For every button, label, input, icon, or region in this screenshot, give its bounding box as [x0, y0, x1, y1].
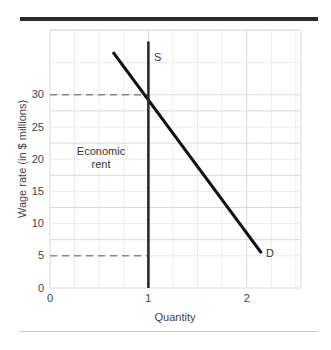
economic-rent-annotation-line1: Economic [77, 145, 126, 157]
x-tick-1: 1 [145, 292, 151, 304]
x-axis-tick-labels: 0 1 2 [47, 292, 250, 304]
y-tick-0: 0 [38, 282, 44, 294]
figure-container: S D Economic rent 0 5 10 15 20 25 30 0 1… [0, 0, 331, 350]
y-tick-20: 20 [32, 153, 44, 165]
y-axis-tick-labels: 0 5 10 15 20 25 30 [32, 88, 44, 293]
y-tick-30: 30 [32, 88, 44, 100]
supply-curve-label: S [154, 51, 161, 63]
economic-rent-chart: S D Economic rent 0 5 10 15 20 25 30 0 1… [0, 0, 331, 331]
bottom-divider-rule [20, 331, 318, 332]
y-tick-5: 5 [38, 249, 44, 261]
y-tick-15: 15 [32, 185, 44, 197]
x-axis-title: Quantity [155, 311, 196, 323]
x-tick-0: 0 [47, 292, 53, 304]
y-tick-25: 25 [32, 121, 44, 133]
x-tick-2: 2 [244, 292, 250, 304]
economic-rent-annotation-line2: rent [92, 158, 111, 170]
plot-area-wrapper: S D Economic rent 0 5 10 15 20 25 30 0 1… [0, 0, 331, 331]
demand-curve [113, 52, 262, 253]
demand-curve-label: D [266, 247, 274, 259]
y-axis-title: Wage rate (in $ millions) [16, 100, 28, 218]
y-tick-10: 10 [32, 217, 44, 229]
